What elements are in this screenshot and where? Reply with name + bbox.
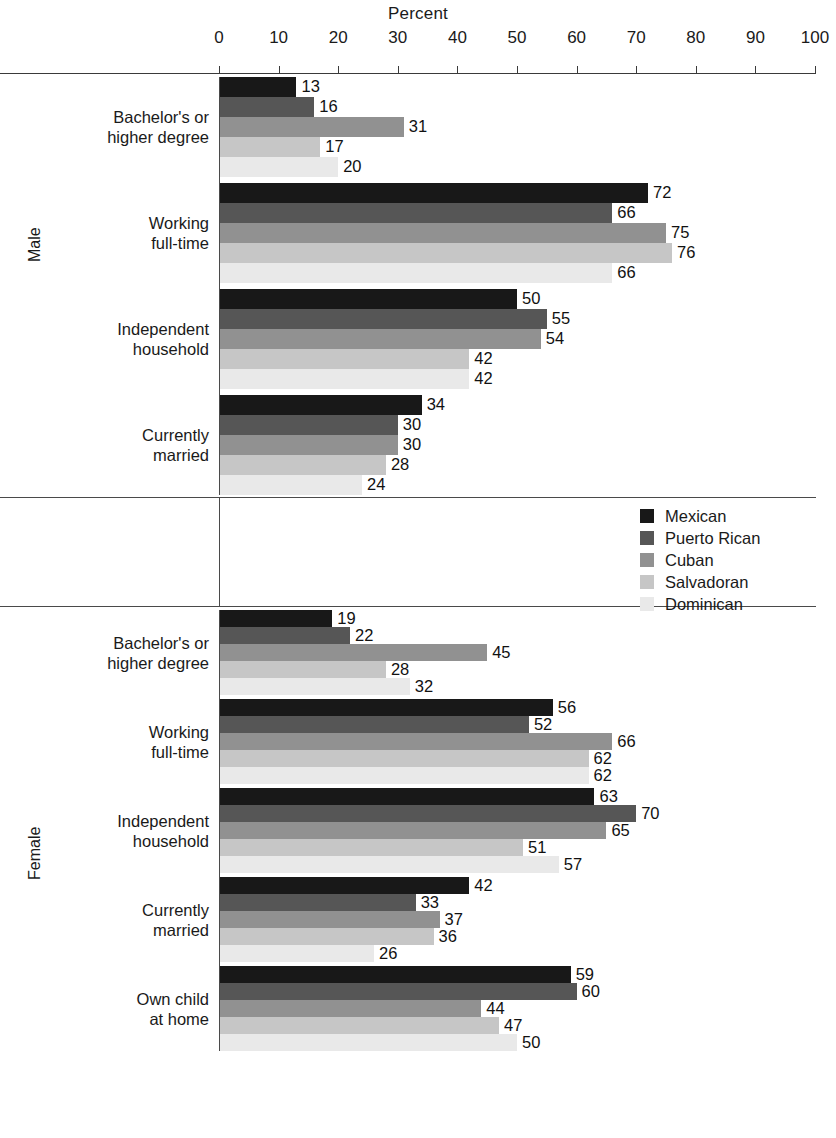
bar-value-label: 55 — [552, 309, 570, 328]
panel-separator-line — [0, 497, 816, 498]
x-tick-label: 50 — [508, 28, 527, 48]
bar — [219, 309, 547, 329]
x-tick-label: 80 — [686, 28, 705, 48]
bar-group: Working full-time5652666262 — [0, 699, 836, 784]
bar-value-label: 34 — [427, 395, 445, 414]
bar-value-label: 66 — [617, 263, 635, 282]
legend-label: Puerto Rican — [665, 527, 760, 549]
bar — [219, 203, 612, 223]
bar — [219, 627, 350, 644]
bar — [219, 329, 541, 349]
category-label: Independent household — [34, 811, 209, 851]
bar-value-label: 42 — [474, 369, 492, 388]
bar-value-label: 16 — [319, 97, 337, 116]
bar — [219, 1017, 499, 1034]
bar-value-label: 54 — [546, 329, 564, 348]
bar-value-label: 66 — [617, 732, 635, 751]
bar-value-label: 75 — [671, 223, 689, 242]
bar-value-label: 65 — [611, 821, 629, 840]
bar-value-label: 63 — [599, 787, 617, 806]
bar — [219, 137, 320, 157]
bar — [219, 716, 529, 733]
axis-title-percent: Percent — [0, 4, 836, 24]
category-label: Own child at home — [34, 989, 209, 1029]
legend-label: Cuban — [665, 549, 714, 571]
bar — [219, 983, 577, 1000]
bar-value-label: 56 — [558, 698, 576, 717]
x-tick-label: 10 — [269, 28, 288, 48]
bar-value-label: 20 — [343, 157, 361, 176]
bar — [219, 415, 398, 435]
category-label: Currently married — [34, 425, 209, 465]
bar — [219, 369, 469, 389]
bar-value-label: 33 — [421, 893, 439, 912]
panel-baseline-connector — [219, 497, 220, 607]
x-tick-label: 60 — [567, 28, 586, 48]
bar-value-label: 70 — [641, 804, 659, 823]
bar — [219, 661, 386, 678]
legend-swatch-icon — [640, 531, 654, 545]
category-label: Currently married — [34, 900, 209, 940]
bar — [219, 644, 487, 661]
bar — [219, 395, 422, 415]
bar — [219, 455, 386, 475]
bar-value-label: 50 — [522, 1033, 540, 1052]
bar — [219, 945, 374, 962]
x-tick-label: 0 — [214, 28, 223, 48]
bar — [219, 839, 523, 856]
bar — [219, 750, 589, 767]
bar-value-label: 19 — [337, 609, 355, 628]
bar-group: Independent household6370655157 — [0, 788, 836, 873]
bar-value-label: 52 — [534, 715, 552, 734]
bar — [219, 475, 362, 495]
category-label: Bachelor's or higher degree — [34, 633, 209, 673]
bar-value-label: 22 — [355, 626, 373, 645]
percent-bar-chart: Percent 0102030405060708090100 MaleBache… — [0, 0, 836, 1138]
bar-value-label: 13 — [301, 77, 319, 96]
legend-swatch-icon — [640, 575, 654, 589]
x-tick-label: 70 — [627, 28, 646, 48]
bar-group: Working full-time7266757666 — [0, 183, 836, 283]
bar-group: Currently married3430302824 — [0, 395, 836, 495]
bar — [219, 911, 440, 928]
bar-value-label: 45 — [492, 643, 510, 662]
bar-value-label: 26 — [379, 944, 397, 963]
bar-value-label: 42 — [474, 876, 492, 895]
bar — [219, 223, 666, 243]
bar-value-label: 24 — [367, 475, 385, 494]
category-label: Independent household — [34, 319, 209, 359]
bar — [219, 767, 589, 784]
legend-swatch-icon — [640, 509, 654, 523]
bar — [219, 97, 314, 117]
x-tick-label: 40 — [448, 28, 467, 48]
bar — [219, 157, 338, 177]
category-label: Working full-time — [34, 722, 209, 762]
x-tick-label: 20 — [329, 28, 348, 48]
bar-value-label: 42 — [474, 349, 492, 368]
bar — [219, 928, 434, 945]
bar-value-label: 31 — [409, 117, 427, 136]
bar — [219, 1034, 517, 1051]
bar-value-label: 32 — [415, 677, 433, 696]
legend-swatch-icon — [640, 597, 654, 611]
x-axis-line — [0, 73, 816, 74]
bar-value-label: 72 — [653, 183, 671, 202]
bar — [219, 263, 612, 283]
bar — [219, 788, 594, 805]
bar — [219, 243, 672, 263]
bar-value-label: 60 — [582, 982, 600, 1001]
legend-label: Mexican — [665, 505, 726, 527]
bar-value-label: 17 — [325, 137, 343, 156]
x-tick-label: 30 — [388, 28, 407, 48]
bar — [219, 877, 469, 894]
bar-value-label: 30 — [403, 415, 421, 434]
panel-baseline — [219, 610, 220, 1051]
bar — [219, 805, 636, 822]
bar — [219, 894, 416, 911]
bar-value-label: 50 — [522, 289, 540, 308]
legend-label: Dominican — [665, 593, 743, 615]
bar — [219, 289, 517, 309]
x-tick-label: 100 — [801, 28, 829, 48]
bar — [219, 1000, 481, 1017]
bar-group: Bachelor's or higher degree1922452832 — [0, 610, 836, 695]
